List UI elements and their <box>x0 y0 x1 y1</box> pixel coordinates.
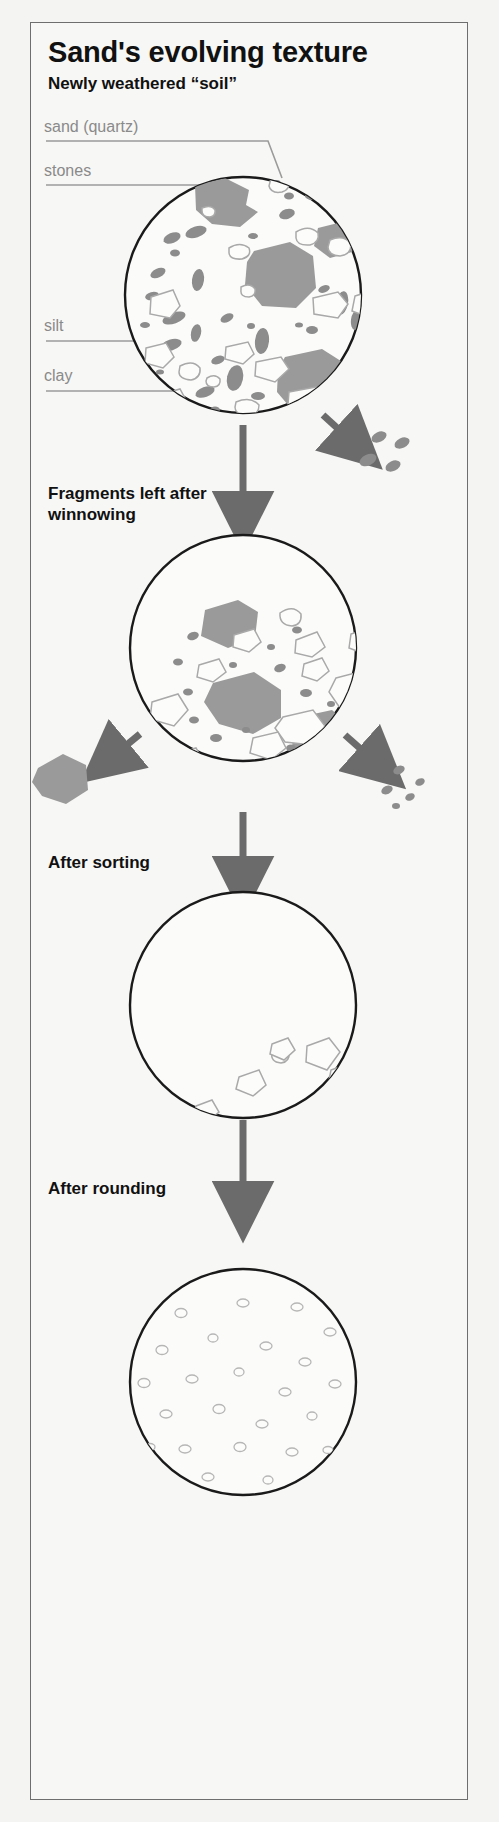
winnow-fines-2 <box>380 764 426 809</box>
stone-eject-arrow <box>106 734 140 762</box>
winnow-arrow-1 <box>323 415 358 447</box>
winnow-fines-1 <box>358 429 412 474</box>
leader-sand-quartz <box>46 141 282 178</box>
winnow-out-1 <box>323 415 411 474</box>
figure-page: Sand's evolving texture Newly weathered … <box>0 0 499 1822</box>
panel-1 <box>125 176 381 416</box>
stone <box>238 755 306 808</box>
panel-3 <box>122 892 369 1304</box>
stone <box>245 242 316 308</box>
panel-2 <box>130 535 388 828</box>
winnow-out-2-right <box>345 735 426 809</box>
ejected-stone <box>32 754 88 804</box>
fines-eject-arrow <box>345 735 381 767</box>
diagram-graphics <box>0 0 499 1822</box>
winnow-out-2-left <box>32 734 140 804</box>
panel-4 <box>130 1269 356 1495</box>
